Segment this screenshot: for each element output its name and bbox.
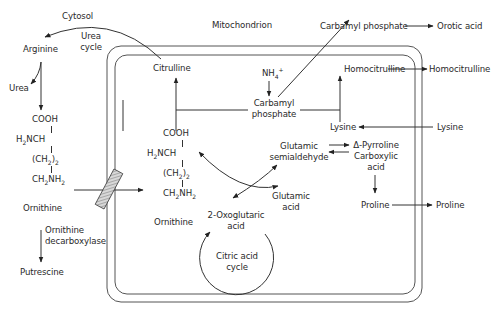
urea-cycle-label: Ureacycle [76,31,106,53]
ornithine-structure-cytosol: COOH H2NCH (CH2)2 CH2NH2 [16,114,65,185]
ornithine-decarboxylase: Ornithinedecarboxylase [45,225,106,247]
mitochondrion-label: Mitochondrion [212,20,272,31]
proline-cytosol: Proline [436,200,464,211]
homocitrulline: Homocitrulline [344,64,405,75]
urea: Urea [9,83,29,94]
ornithine-mito: Ornithine [154,217,193,228]
glutamic-semialdehyde: Glutamicsemialdehyde [269,141,329,163]
citric-acid-cycle: Citric acidcycle [212,251,262,273]
2-oxoglutaric-acid: 2-Oxoglutaricacid [206,210,266,232]
carbamyl-phosphate: Carbamylphosphate [247,98,301,120]
pyrroline-carboxylic-acid: Δ-PyrrolineCarboxylicacid [349,140,403,173]
lysine-cytosol: Lysine [437,122,463,133]
orotic-acid: Orotic acid [437,21,482,32]
lysine: Lysine [330,122,356,133]
cytosol-label: Cytosol [62,11,93,22]
ornithine-structure-mito: COOH H2NCH (CH2)2 CH2NH2 [147,128,196,199]
proline: Proline [361,200,389,211]
arginine: Arginine [23,44,58,55]
ornithine-transporter [95,169,123,209]
putrescine: Putrescine [20,267,64,278]
ornithine-cytosol: Ornithine [23,203,62,214]
citrulline: Citrulline [153,63,191,74]
carbamyl-phosphate-cytosol: Carbamyl phosphate [320,21,408,32]
glutamic-acid: Glutamicacid [271,191,311,213]
homocitrulline-cytosol: Homocitrulline [429,64,490,75]
nh4: NH4+ [262,68,283,79]
